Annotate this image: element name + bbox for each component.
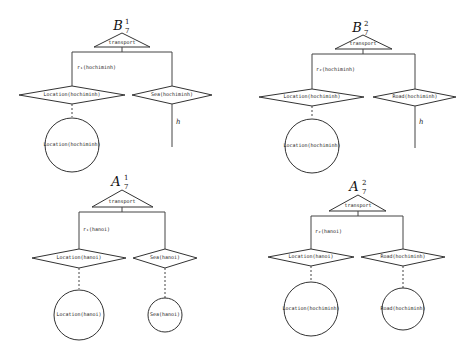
left-circle-label: Location(hochiminh) <box>282 305 339 311</box>
left-circle-label: Location(hanoi) <box>56 311 101 317</box>
title-subscript: 7 <box>124 183 128 191</box>
left-diamond-label: Location(hanoi) <box>288 253 333 259</box>
edge-label: r₂(hochiminh) <box>316 66 355 72</box>
title-superscript: 2 <box>364 20 368 28</box>
diagram-title: B <box>351 20 362 35</box>
diagram-a7-2: A 2 7 transport r₂(hanoi) Location(hanoi… <box>268 179 445 336</box>
left-circle-label: Location(hochiminh) <box>43 141 100 147</box>
diagram-title: B <box>112 18 123 33</box>
diagram-b7-2: B 2 7 transport r₂(hochiminh) Location(h… <box>259 20 456 173</box>
title-subscript: 7 <box>125 27 129 35</box>
edge-label: r₁(hochiminh) <box>77 64 116 70</box>
right-edge-label: h <box>419 118 424 126</box>
right-edge-label: h <box>176 118 181 126</box>
left-circle-label: Location(hochiminh) <box>283 142 340 148</box>
left-diamond-label: Location(hochiminh) <box>43 91 100 97</box>
root-node-label: transport <box>108 39 135 46</box>
edge-label: r₂(hanoi) <box>315 228 342 234</box>
right-diamond-label: Road(hochiminh) <box>392 93 437 99</box>
right-diamond-label: Sea(hochiminh) <box>151 91 193 97</box>
diagram-title: A <box>110 174 120 189</box>
title-superscript: 1 <box>125 18 129 26</box>
diagram-a7-1: A 1 7 transport r₁(hanoi) Location(hanoi… <box>32 174 197 340</box>
root-node-label: transport <box>344 202 371 209</box>
diagram-title: A <box>348 179 358 194</box>
left-diamond-label: Location(hochiminh) <box>283 93 340 99</box>
right-circle-label: Sea(hanoi) <box>150 311 180 317</box>
root-node-label: transport <box>349 40 376 47</box>
edge-label: r₁(hanoi) <box>83 226 110 232</box>
diagram-canvas: B 1 7 transport r₁(hochiminh) Location(h… <box>0 0 474 357</box>
title-superscript: 1 <box>124 174 128 182</box>
right-diamond-label: Sea(hanoi) <box>150 254 180 260</box>
root-node-label: transport <box>108 198 135 205</box>
left-diamond-label: Location(hanoi) <box>56 254 101 260</box>
diagram-b7-1: B 1 7 transport r₁(hochiminh) Location(h… <box>19 18 212 172</box>
title-subscript: 7 <box>362 188 366 196</box>
right-diamond-label: Road(hochiminh) <box>380 253 425 259</box>
right-circle-label: Road(hochiminh) <box>380 305 425 311</box>
title-superscript: 2 <box>362 179 366 187</box>
